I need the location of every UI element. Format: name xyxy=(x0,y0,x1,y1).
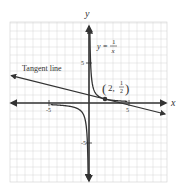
point-label-open-paren: ( xyxy=(102,81,106,96)
tangent-line-label: Tangent line xyxy=(22,64,62,73)
x-tick-label: -5 xyxy=(46,107,51,113)
point-label-x: 2, xyxy=(108,83,115,93)
y-tick-label: -5 xyxy=(81,140,86,146)
curve-label-lhs: y = xyxy=(96,42,108,51)
x-tick-label: 5 xyxy=(126,107,129,113)
point-label-close-paren: ) xyxy=(125,81,129,96)
x-axis-label: x xyxy=(170,97,176,108)
tangent-point xyxy=(103,97,108,102)
point-label-numerator: 1 xyxy=(120,80,123,86)
y-axis-label: y xyxy=(84,8,90,19)
curve-label-numerator: 1 xyxy=(112,38,116,46)
y-tick-label: 5 xyxy=(81,60,84,66)
point-label-denominator: 2 xyxy=(120,88,123,94)
chart-svg: xy-555-5 y =1xTangent line(2,12) xyxy=(0,0,178,188)
